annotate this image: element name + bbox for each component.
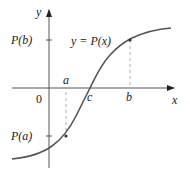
label-pb: P(b) bbox=[10, 33, 32, 47]
x-axis-label: x bbox=[171, 93, 178, 107]
origin-label: 0 bbox=[36, 92, 42, 106]
diagram: y x 0 P(b) P(a) y = P(x) a b c bbox=[0, 0, 190, 170]
label-pa: P(a) bbox=[10, 129, 32, 143]
curve-label: y = P(x) bbox=[70, 34, 111, 48]
point-b bbox=[128, 38, 131, 41]
label-a: a bbox=[63, 73, 69, 87]
y-axis-label: y bbox=[35, 5, 42, 19]
sigmoid-plot: y x 0 P(b) P(a) y = P(x) a b c bbox=[0, 0, 190, 170]
point-a bbox=[64, 134, 67, 137]
label-c: c bbox=[87, 90, 93, 104]
label-b: b bbox=[126, 90, 132, 104]
